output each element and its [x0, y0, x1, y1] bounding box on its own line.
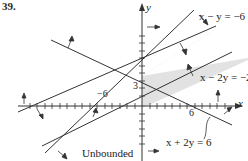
equation-label-1: x − y = −6	[199, 10, 245, 22]
tick-label-neg6: −6	[97, 88, 108, 99]
y-axis-label: y	[146, 1, 151, 13]
region-label: Unbounded	[82, 147, 133, 159]
x-axis-label: x	[238, 97, 243, 109]
tick-label-6: 6	[189, 107, 194, 118]
tick-label-3: 3	[133, 80, 138, 91]
equation-label-3: x + 2y = 6	[166, 136, 211, 148]
equation-label-2: x − 2y = −2	[200, 71, 248, 83]
line-x-minus-2y	[42, 52, 232, 146]
y-axis-arrow-icon	[139, 3, 145, 11]
